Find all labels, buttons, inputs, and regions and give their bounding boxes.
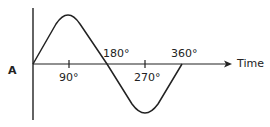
tick-label-180: 180° — [103, 48, 130, 59]
time-axis-label: Time — [237, 58, 264, 69]
diagram-graphics — [0, 0, 270, 127]
amplitude-label: A — [8, 65, 17, 76]
tick-label-360: 360° — [171, 48, 198, 59]
sine-wave-diagram: A 90° 180° 270° 360° Time — [0, 0, 270, 127]
tick-label-90: 90° — [59, 72, 79, 83]
tick-label-270: 270° — [134, 72, 161, 83]
